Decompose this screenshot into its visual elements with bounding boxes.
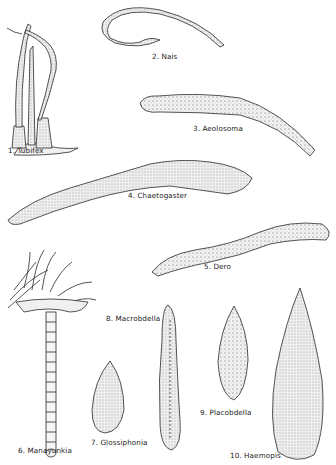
label-haemopis: 10. Haemopis	[230, 451, 281, 460]
label-nais: 2. Nais	[152, 52, 177, 61]
glossiphonia-drawing	[92, 361, 124, 433]
label-aeolosoma: 3. Aeolosoma	[193, 124, 243, 133]
macrobdella-drawing	[159, 305, 180, 450]
nais-drawing	[102, 8, 224, 47]
label-placobdella: 9. Placobdella	[200, 408, 252, 417]
manayunkia-drawing	[8, 250, 96, 457]
label-dero: 5. Dero	[204, 262, 231, 271]
worm-illustration	[0, 0, 336, 465]
label-macrobdella: 8. Macrobdella	[106, 314, 160, 323]
label-chaetogaster: 4. Chaetogaster	[128, 191, 187, 200]
dero-drawing	[152, 223, 329, 276]
haemopis-drawing	[272, 288, 323, 459]
label-manayunkia: 6. Manayunkia	[18, 446, 72, 455]
placobdella-drawing	[218, 306, 248, 400]
label-tubifex: 1. Tubifex	[8, 146, 44, 155]
tubifex-drawing	[7, 24, 78, 155]
label-glossiphonia: 7. Glossiphonia	[91, 438, 148, 447]
